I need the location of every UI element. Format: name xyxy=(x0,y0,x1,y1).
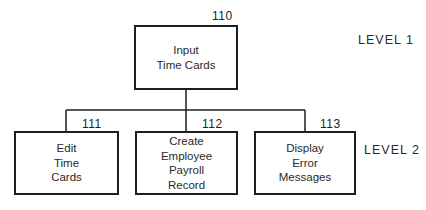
level-2-label: LEVEL 2 xyxy=(364,143,420,157)
level-1-label: LEVEL 1 xyxy=(358,33,414,47)
module-number-110: 110 xyxy=(212,9,233,23)
module-number-112: 112 xyxy=(202,117,223,131)
module-label: Create Employee Payroll Record xyxy=(161,134,212,192)
module-box-edit-time-cards: Edit Time Cards xyxy=(14,131,119,195)
module-number-111: 111 xyxy=(82,117,102,131)
module-label: Display Error Messages xyxy=(279,141,331,185)
module-box-create-employee-payroll-record: Create Employee Payroll Record xyxy=(135,131,238,195)
module-box-display-error-messages: Display Error Messages xyxy=(254,131,356,195)
module-number-113: 113 xyxy=(320,117,341,131)
module-box-input-time-cards: Input Time Cards xyxy=(134,25,238,90)
module-label: Edit Time Cards xyxy=(51,141,82,185)
module-label: Input Time Cards xyxy=(157,43,216,72)
